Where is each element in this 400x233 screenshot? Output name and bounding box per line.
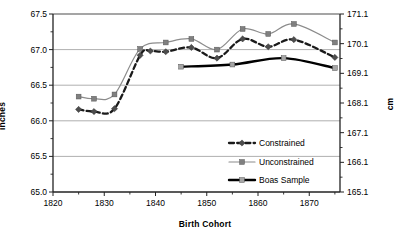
y-axis-left-tick-label: 66.0 bbox=[30, 116, 47, 126]
legend-label-boas-sample: Boas Sample bbox=[259, 175, 310, 185]
x-axis-tick-label: 1860 bbox=[249, 198, 268, 208]
x-axis-tick-label: 1840 bbox=[146, 198, 165, 208]
chart-container: inches cm Birth Cohort 18201830184018501… bbox=[0, 0, 400, 233]
x-axis-tick-label: 1830 bbox=[95, 198, 114, 208]
legend-label-unconstrained: Unconstrained bbox=[259, 157, 314, 167]
x-axis-title: Birth Cohort bbox=[179, 219, 231, 229]
legend-label-constrained: Constrained bbox=[259, 138, 305, 148]
y-axis-right-title: cm bbox=[385, 98, 395, 111]
x-axis-tick-label: 1850 bbox=[197, 198, 216, 208]
y-axis-right-tick-label: 167.1 bbox=[347, 128, 368, 138]
y-axis-left-title: inches bbox=[0, 102, 7, 130]
y-axis-left-tick-label: 65.0 bbox=[30, 187, 47, 197]
legend-symbol-boas-sample bbox=[229, 178, 255, 183]
series-constrained bbox=[76, 36, 338, 115]
legend-symbols bbox=[229, 140, 255, 183]
y-axis-left-tick-label: 67.0 bbox=[30, 45, 47, 55]
y-axis-right-tick-label: 166.1 bbox=[347, 157, 368, 167]
y-axis-right-tick-label: 170.1 bbox=[347, 39, 368, 49]
y-axis-right-tick-label: 171.1 bbox=[347, 9, 368, 19]
y-axis-right-tick-label: 168.1 bbox=[347, 98, 368, 108]
x-axis-tick-label: 1820 bbox=[44, 198, 63, 208]
data-series-layer bbox=[76, 22, 338, 115]
legend-symbol-unconstrained bbox=[229, 160, 255, 165]
y-axis-right-tick-label: 165.1 bbox=[347, 187, 368, 197]
series-unconstrained bbox=[76, 22, 337, 102]
y-axis-left-tick-label: 67.5 bbox=[30, 9, 47, 19]
y-axis-left-tick-label: 66.5 bbox=[30, 80, 47, 90]
x-axis-tick-label: 1870 bbox=[300, 198, 319, 208]
legend-symbol-constrained bbox=[229, 140, 255, 146]
series-boas-sample bbox=[179, 56, 338, 71]
y-axis-right-tick-label: 169.1 bbox=[347, 68, 368, 78]
y-axis-left-tick-label: 65.5 bbox=[30, 151, 47, 161]
